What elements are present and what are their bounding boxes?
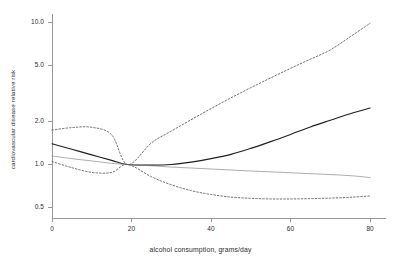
series-line-0: [52, 23, 370, 164]
y-tick-label: 0.5: [6, 204, 44, 211]
y-tick-label: 10.0: [6, 19, 44, 26]
series-line-1: [52, 108, 370, 165]
x-tick-label: 80: [355, 226, 385, 233]
data-series-layer: [52, 23, 370, 199]
axis-frame: [52, 14, 386, 218]
x-tick-label: 40: [196, 226, 226, 233]
x-tick-label: 60: [276, 226, 306, 233]
series-line-3: [52, 162, 370, 199]
y-axis-title: cardiovascular disease relative risk: [9, 60, 16, 180]
x-tick-label: 0: [37, 226, 67, 233]
y-tick-marks: [48, 23, 52, 208]
chart-container: 0.51.02.05.010.0 020406080 alcohol consu…: [0, 0, 401, 266]
x-tick-marks: [52, 218, 370, 222]
x-axis-title: alcohol consumption, grams/day: [0, 246, 401, 253]
x-tick-label: 20: [117, 226, 147, 233]
